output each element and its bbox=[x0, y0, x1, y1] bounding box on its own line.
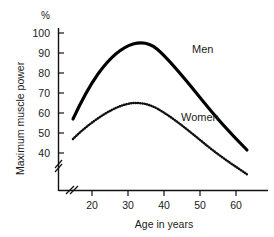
x-tick-label-40: 40 bbox=[151, 200, 177, 211]
y-axis-unit-label: % bbox=[41, 11, 50, 21]
series-annotation-women: Women bbox=[181, 112, 219, 123]
x-tick-label-50: 50 bbox=[187, 200, 213, 211]
y-tick-label-40: 40 bbox=[26, 148, 50, 159]
x-tick-label-20: 20 bbox=[79, 200, 105, 211]
y-tick-label-90: 90 bbox=[26, 48, 50, 59]
x-tick-label-30: 30 bbox=[115, 200, 141, 211]
y-tick-label-50: 50 bbox=[26, 128, 50, 139]
series-annotation-men: Men bbox=[192, 44, 213, 55]
y-axis-ticks bbox=[59, 33, 65, 153]
y-tick-label-100: 100 bbox=[26, 28, 50, 39]
x-tick-label-60: 60 bbox=[223, 200, 249, 211]
x-axis-title: Age in years bbox=[104, 219, 224, 230]
series-line-women bbox=[73, 103, 248, 175]
y-axis-title: Maximum muscle power bbox=[15, 62, 26, 175]
y-tick-label-70: 70 bbox=[26, 88, 50, 99]
x-axis-ticks bbox=[92, 191, 236, 197]
y-tick-label-60: 60 bbox=[26, 108, 50, 119]
series-line-men bbox=[73, 43, 247, 150]
y-tick-label-80: 80 bbox=[26, 68, 50, 79]
chart-container: % 100 90 80 70 60 50 40 20 30 40 50 60 A… bbox=[0, 0, 274, 237]
